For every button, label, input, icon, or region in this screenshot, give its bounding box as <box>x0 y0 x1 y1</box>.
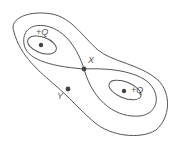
charge-label-right: +Q <box>131 86 143 95</box>
point-y-label: Y <box>57 92 63 101</box>
point-x-dot <box>82 67 87 72</box>
point-x-label: X <box>88 56 94 65</box>
point-y-dot <box>66 87 71 92</box>
equipotential-diagram: +Q +Q X Y <box>0 0 175 145</box>
charge-dot-left <box>39 43 43 47</box>
contour-lines <box>0 0 175 145</box>
figure-eight-contour <box>24 25 157 116</box>
charge-label-left: +Q <box>36 28 48 37</box>
charge-dot-right <box>122 89 126 93</box>
